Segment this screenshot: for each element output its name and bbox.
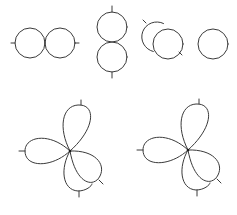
lobe-lower — [182, 150, 210, 190]
circle-single — [198, 29, 228, 59]
circle — [198, 29, 228, 59]
tick-lower-right — [217, 179, 221, 183]
lobe-lower-right — [70, 151, 102, 182]
circle-top — [97, 12, 127, 42]
lobe-lower — [64, 151, 92, 191]
lobe-lower-right — [188, 150, 220, 181]
circle-back — [142, 22, 164, 52]
diagram-svg — [0, 0, 237, 215]
circle-pair-overlapping — [142, 20, 183, 59]
circle-front — [153, 29, 183, 59]
diagram-canvas — [0, 0, 237, 215]
lobe-left — [143, 137, 188, 163]
circle-right — [45, 28, 75, 58]
tick-upper-left — [143, 20, 146, 23]
lobe-left — [25, 138, 70, 164]
clover-left — [19, 100, 103, 197]
center-dot — [187, 149, 190, 152]
circle-left — [15, 28, 45, 58]
center-dot — [69, 150, 72, 153]
circle-pair-vertical — [97, 6, 127, 78]
lobe-upper — [63, 105, 91, 151]
tick-lower-right — [99, 180, 103, 184]
circle-pair-horizontal — [11, 28, 79, 58]
circle-bottom — [97, 42, 127, 72]
clover-right — [137, 99, 221, 196]
lobe-upper — [181, 104, 209, 150]
